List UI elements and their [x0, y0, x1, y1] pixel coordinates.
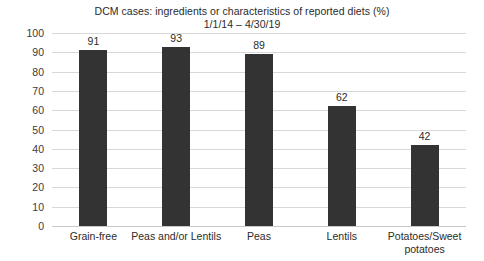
- y-tick-label: 70: [0, 85, 44, 96]
- gridline: [52, 226, 466, 227]
- chart-title: DCM cases: ingredients or characteristic…: [0, 5, 484, 31]
- x-tick-label: Potatoes/Sweetpotatoes: [377, 230, 473, 255]
- bar: [162, 47, 190, 226]
- x-tick-label: Grain-free: [45, 230, 141, 243]
- x-tick-label-line: Peas: [211, 230, 307, 243]
- x-tick-label: Lentils: [294, 230, 390, 243]
- y-tick-label: 30: [0, 163, 44, 174]
- bar: [79, 50, 107, 226]
- bar-value-label: 62: [312, 92, 372, 103]
- x-tick-label-line: Peas and/or Lentils: [128, 230, 224, 243]
- bar-value-label: 93: [146, 33, 206, 44]
- y-tick-label: 40: [0, 143, 44, 154]
- bar-value-label: 42: [395, 131, 455, 142]
- y-tick-label: 60: [0, 105, 44, 116]
- y-tick-label: 20: [0, 182, 44, 193]
- x-tick-label-line: potatoes: [377, 243, 473, 256]
- x-tick-label: Peas: [211, 230, 307, 243]
- bar-value-label: 91: [63, 36, 123, 47]
- x-tick-label-line: Potatoes/Sweet: [377, 230, 473, 243]
- y-tick-label: 80: [0, 66, 44, 77]
- bar: [328, 106, 356, 226]
- bar-value-label: 89: [229, 40, 289, 51]
- bar: [411, 145, 439, 226]
- x-tick-label-line: Grain-free: [45, 230, 141, 243]
- chart-title-line-1: DCM cases: ingredients or characteristic…: [0, 5, 484, 18]
- y-tick-label: 90: [0, 47, 44, 58]
- chart-title-line-2: 1/1/14 – 4/30/19: [0, 18, 484, 31]
- y-tick-label: 10: [0, 201, 44, 212]
- gridline: [52, 33, 466, 34]
- y-tick-label: 0: [0, 221, 44, 232]
- x-tick-label: Peas and/or Lentils: [128, 230, 224, 243]
- x-tick-label-line: Lentils: [294, 230, 390, 243]
- y-tick-label: 50: [0, 124, 44, 135]
- gridline: [52, 52, 466, 53]
- y-tick-label: 100: [0, 28, 44, 39]
- plot-area: 9193896242: [52, 33, 466, 226]
- bar: [245, 54, 273, 226]
- bar-chart: DCM cases: ingredients or characteristic…: [0, 0, 484, 261]
